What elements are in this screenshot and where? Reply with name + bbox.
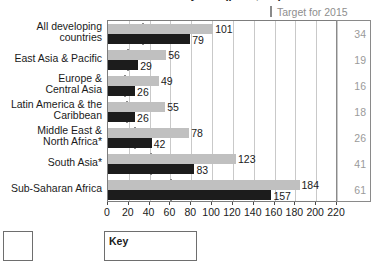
bar-value-series-1: 101	[215, 24, 233, 34]
bar-series-2	[108, 164, 194, 174]
x-axis-tick-label: 220	[327, 206, 345, 218]
bar-value-series-1: 49	[161, 76, 173, 86]
target-value: 26	[354, 132, 366, 144]
category-label: Middle East & North Africa*	[0, 125, 102, 147]
x-axis: 020406080100120140160180200220	[107, 202, 336, 222]
bar-value-series-2: 29	[140, 61, 152, 71]
category-axis-labels: All developing countriesEast Asia & Paci…	[0, 20, 105, 202]
chart-title: Under-five mortality rate (per 1,000)	[0, 0, 371, 1]
bar-series-2	[108, 60, 138, 70]
key-label: Key	[109, 235, 128, 247]
category-label: Latin America & the Caribbean	[0, 99, 102, 121]
bar-series-2	[108, 86, 135, 96]
gridline	[316, 21, 317, 201]
gridline	[275, 21, 276, 201]
x-axis-tick	[294, 202, 295, 205]
target-value: 16	[354, 80, 366, 92]
bar-series-1	[108, 76, 159, 86]
x-axis-tick-label: 80	[184, 206, 196, 218]
target-header-label: Target for 2015	[277, 6, 348, 18]
target-value: 61	[354, 184, 366, 196]
plot-area: 10179562949265526784212383184157	[107, 20, 336, 202]
bar-value-series-2: 83	[196, 165, 208, 175]
category-label: Europe & Central Asia	[0, 73, 102, 95]
bar-value-series-1: 78	[191, 128, 203, 138]
x-axis-tick	[315, 202, 316, 205]
x-axis-tick-label: 20	[122, 206, 134, 218]
x-axis-tick	[336, 202, 337, 205]
chart-area: All developing countriesEast Asia & Paci…	[0, 20, 371, 202]
x-axis-tick	[149, 202, 150, 205]
x-axis-tick-label: 200	[306, 206, 324, 218]
bar-series-1	[108, 180, 300, 190]
gridline	[212, 21, 213, 201]
x-axis-tick	[190, 202, 191, 205]
x-axis-tick-label: 0	[104, 206, 110, 218]
x-axis-tick	[232, 202, 233, 205]
target-value: 19	[354, 54, 366, 66]
key-box: Key	[104, 231, 197, 261]
bar-series-2	[108, 112, 135, 122]
bar-series-1	[108, 50, 166, 60]
bar-value-series-2: 26	[137, 87, 149, 97]
x-axis-tick-label: 120	[223, 206, 241, 218]
bar-value-series-1: 56	[168, 50, 180, 60]
target-column-header: Target for 2015	[270, 5, 348, 18]
gridline	[233, 21, 234, 201]
bar-series-2	[108, 190, 271, 200]
x-axis-tick-label: 140	[244, 206, 262, 218]
x-axis-tick	[169, 202, 170, 205]
x-axis-tick	[107, 202, 108, 205]
bar-value-series-2: 79	[192, 35, 204, 45]
bar-value-series-2: 26	[137, 113, 149, 123]
target-value: 18	[354, 106, 366, 118]
bottom-left-box	[3, 231, 33, 261]
gridline	[254, 21, 255, 201]
bar-series-2	[108, 138, 152, 148]
x-axis-tick	[128, 202, 129, 205]
target-tick-icon	[270, 6, 272, 17]
target-value: 41	[354, 158, 366, 170]
bar-value-series-1: 55	[167, 102, 179, 112]
category-label: East Asia & Pacific	[0, 53, 102, 64]
bar-series-1	[108, 128, 189, 138]
x-axis-tick-label: 60	[164, 206, 176, 218]
bar-value-series-2: 157	[273, 191, 291, 201]
category-label: All developing countries	[0, 21, 102, 43]
target-value: 34	[354, 28, 366, 40]
x-axis-tick-label: 40	[143, 206, 155, 218]
bar-value-series-1: 123	[238, 154, 256, 164]
x-axis-tick-label: 100	[202, 206, 220, 218]
bar-series-2	[108, 34, 190, 44]
x-axis-tick-label: 160	[265, 206, 283, 218]
x-axis-tick	[274, 202, 275, 205]
bar-series-1	[108, 24, 213, 34]
x-axis-tick-label: 180	[286, 206, 304, 218]
x-axis-tick	[211, 202, 212, 205]
gridline	[191, 21, 192, 201]
bar-value-series-1: 184	[302, 180, 320, 190]
gridline	[295, 21, 296, 201]
category-label: Sub-Saharan Africa	[0, 183, 102, 194]
x-axis-tick	[253, 202, 254, 205]
bar-series-1	[108, 102, 165, 112]
category-label: South Asia*	[0, 157, 102, 168]
bar-series-1	[108, 154, 236, 164]
bar-value-series-2: 42	[154, 139, 166, 149]
target-values-column: 34191618264161	[336, 20, 371, 202]
